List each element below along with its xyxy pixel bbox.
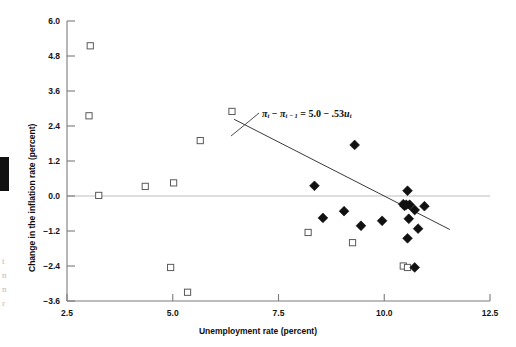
eq-minus-2: − [321,108,332,119]
data-point-filled-diamond [413,224,423,234]
y-tick-label: 4.8 [28,51,60,61]
data-point-filled-diamond [310,181,320,191]
data-point-open-square [305,229,311,235]
x-tick-label: 10.0 [364,308,404,318]
y-axis-title: Change in the inflation rate (percent) [27,124,37,272]
y-tick-label: 3.6 [28,86,60,96]
eq-equals: = [298,108,309,119]
data-point-open-square [171,180,177,186]
data-point-open-square [142,183,148,189]
eq-intercept: 5.0 [308,108,321,119]
data-point-open-square [197,137,203,143]
data-point-filled-diamond [318,213,328,223]
eq-slope: .53 [332,108,345,119]
eq-minus-1: − [269,108,280,119]
eq-sub-t-minus-1: t − 1 [285,112,297,119]
data-point-filled-diamond [403,186,413,196]
regression-equation-annotation: πt − πt − 1 = 5.0 − .53ut [262,108,351,119]
x-tick-label: 7.5 [259,308,299,318]
data-point-open-square [86,113,92,119]
data-point-filled-diamond [350,140,360,150]
data-point-filled-diamond [377,216,387,226]
series-open-square-points [86,43,411,296]
data-point-filled-diamond [356,221,366,231]
axis-tick-marks [67,21,490,301]
x-axis-title: Unemployment rate (percent) [0,326,516,336]
eq-sub-t-2: t [350,112,352,119]
data-point-filled-diamond [410,263,420,273]
y-tick-label: −3.6 [28,296,60,306]
data-point-open-square [168,264,174,270]
data-point-open-square [229,108,235,114]
data-point-filled-diamond [420,201,430,211]
y-tick-label: 6.0 [28,16,60,26]
data-point-open-square [96,192,102,198]
annotation-leader-line [231,113,259,136]
x-tick-label: 2.5 [47,308,87,318]
x-tick-label: 5.0 [153,308,193,318]
x-tick-label: 12.5 [470,308,510,318]
data-point-filled-diamond [404,214,414,224]
data-point-open-square [87,43,93,49]
data-point-open-square [349,240,355,246]
plot-axes [67,21,490,301]
scatter-plot-canvas [0,0,516,347]
data-point-filled-diamond [403,233,413,243]
series-filled-diamond-points [310,140,430,272]
data-point-open-square [184,289,190,295]
data-point-filled-diamond [339,206,349,216]
phillips-curve-figure: t n n r 6.04.83.62.41.20.0−1.2−2.4−3.6 2… [0,0,516,347]
